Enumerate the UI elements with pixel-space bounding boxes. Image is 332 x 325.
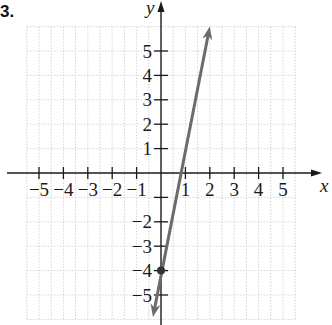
plotted-line [151,27,213,317]
y-tick-label: 1 [143,138,153,159]
x-tick-label: −4 [53,179,74,200]
x-tick-label: 3 [229,179,239,200]
tick-labels: xy−5−4−3−2−11234554321−2−3−4−5 [29,0,329,306]
x-tick-label: 5 [278,179,288,200]
y-tick-label: 5 [143,41,153,62]
x-tick-label: 2 [205,179,215,200]
axes [7,1,322,325]
x-axis-label: x [319,175,329,196]
y-tick-label: −2 [132,211,152,232]
x-tick-label: −1 [126,179,146,200]
x-tick-label: −5 [29,179,49,200]
y-tick-label: −3 [132,236,152,257]
y-axis-label: y [144,0,155,18]
coordinate-plane: xy−5−4−3−2−11234554321−2−3−4−5 [0,0,332,325]
y-axis-arrow-icon [158,1,165,12]
y-tick-label: −4 [132,260,153,281]
y-intercept-point [157,267,165,275]
y-tick-label: 4 [143,65,153,86]
y-tick-label: −5 [132,285,152,306]
x-tick-label: 4 [254,179,264,200]
x-tick-label: 1 [181,179,191,200]
y-tick-label: 3 [143,89,153,110]
y-tick-label: 2 [143,114,153,135]
x-tick-label: −3 [78,179,98,200]
x-tick-label: −2 [102,179,122,200]
